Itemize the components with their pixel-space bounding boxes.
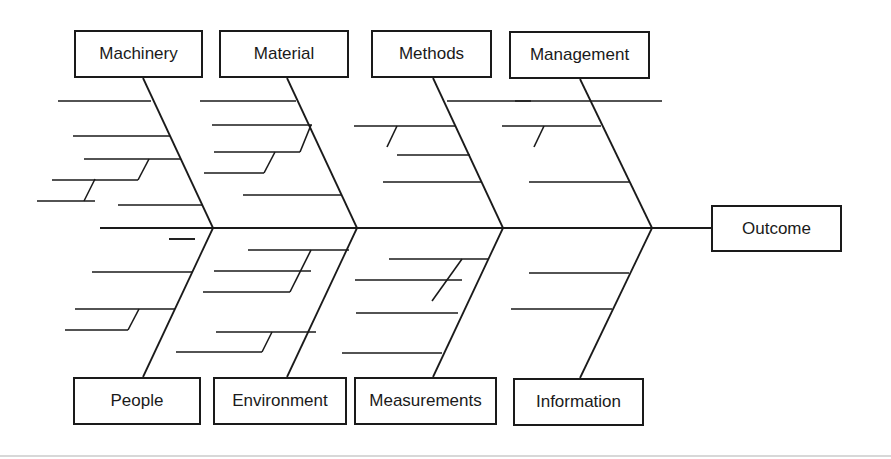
cause-rib bbox=[128, 309, 139, 330]
cause-rib bbox=[264, 152, 275, 173]
category-label: Management bbox=[530, 45, 629, 65]
category-box-machinery: Machinery bbox=[74, 30, 203, 78]
category-box-methods: Methods bbox=[371, 30, 492, 78]
category-box-environment: Environment bbox=[213, 377, 347, 425]
cause-rib bbox=[262, 332, 272, 352]
category-label: Measurements bbox=[369, 391, 481, 411]
bone-people bbox=[143, 228, 213, 377]
category-box-information: Information bbox=[513, 378, 644, 426]
cause-rib bbox=[84, 179, 95, 201]
category-label: Machinery bbox=[99, 44, 177, 64]
cause-rib bbox=[387, 126, 397, 147]
category-box-measurements: Measurements bbox=[354, 377, 497, 425]
category-box-management: Management bbox=[509, 31, 650, 79]
category-label: People bbox=[111, 391, 164, 411]
category-label: Methods bbox=[399, 44, 464, 64]
cause-rib bbox=[138, 159, 149, 180]
cause-ribs bbox=[37, 101, 662, 353]
category-label: Information bbox=[536, 392, 621, 412]
cause-rib bbox=[300, 125, 311, 152]
category-label: Environment bbox=[232, 391, 327, 411]
outcome-label: Outcome bbox=[742, 219, 811, 239]
bone-material bbox=[287, 78, 357, 228]
bottom-rule-divider bbox=[0, 455, 891, 457]
cause-rib bbox=[534, 126, 544, 147]
category-label: Material bbox=[254, 44, 314, 64]
category-box-people: People bbox=[73, 377, 201, 425]
bone-information bbox=[580, 228, 652, 378]
bone-measurements bbox=[433, 228, 503, 377]
category-box-material: Material bbox=[219, 30, 349, 78]
outcome-box: Outcome bbox=[711, 205, 842, 252]
